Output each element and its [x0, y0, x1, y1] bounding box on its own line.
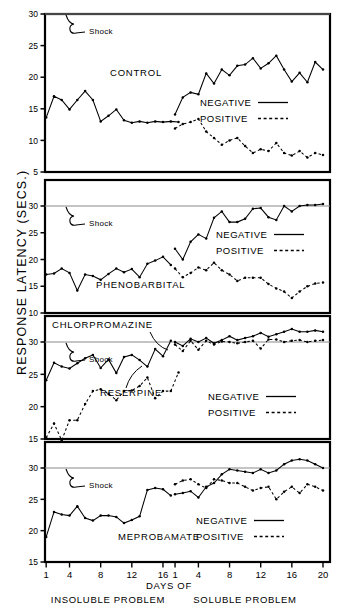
- panel-title: CHLORPROMAZINE: [52, 319, 153, 330]
- shock-pointer-icon: [66, 15, 85, 33]
- shock-pointer-icon: [66, 207, 85, 225]
- data-point: [283, 205, 286, 208]
- data-point: [123, 271, 126, 274]
- data-point: [189, 91, 192, 94]
- data-point: [306, 81, 309, 84]
- data-point: [291, 486, 294, 489]
- data-point: [174, 493, 177, 496]
- data-point: [182, 350, 185, 353]
- x-tick-label: 12: [255, 569, 266, 580]
- data-point: [267, 472, 270, 475]
- data-point: [174, 267, 177, 270]
- data-point: [60, 267, 63, 270]
- data-point: [84, 517, 87, 520]
- data-point: [236, 469, 239, 472]
- data-point: [131, 354, 134, 357]
- data-point: [205, 269, 208, 272]
- data-point: [236, 137, 239, 140]
- data-point: [197, 266, 200, 269]
- data-point: [182, 479, 185, 482]
- panel-title-secondary: RESERPINE: [100, 387, 162, 398]
- series-line-positive: [175, 263, 323, 298]
- data-point: [252, 57, 255, 60]
- data-point: [244, 471, 247, 474]
- data-point: [228, 221, 231, 224]
- shock-pointer-icon: [66, 469, 85, 487]
- data-point: [131, 268, 134, 271]
- data-point: [259, 487, 262, 490]
- panel-frame: [45, 14, 330, 172]
- data-point: [291, 80, 294, 83]
- data-point: [162, 355, 165, 358]
- data-point: [298, 339, 301, 342]
- data-point: [322, 281, 325, 284]
- data-point: [252, 472, 255, 475]
- data-point: [107, 115, 110, 118]
- data-point: [53, 95, 56, 98]
- data-point: [244, 218, 247, 221]
- y-tick-label: 20: [29, 526, 39, 536]
- data-point: [162, 390, 165, 393]
- data-point: [306, 204, 309, 207]
- data-point: [275, 333, 278, 336]
- data-point: [236, 65, 239, 68]
- data-point: [221, 68, 224, 71]
- x-tick-label: 16: [287, 569, 298, 580]
- data-point: [174, 341, 177, 344]
- data-point: [314, 463, 317, 466]
- data-point: [244, 145, 247, 148]
- data-point: [45, 436, 48, 439]
- data-point: [162, 121, 165, 124]
- data-point: [252, 207, 255, 210]
- data-point: [275, 498, 278, 501]
- data-point: [314, 282, 317, 285]
- data-point: [306, 330, 309, 333]
- data-point: [236, 280, 239, 283]
- legend-label-positive: POSITIVE: [208, 407, 256, 418]
- data-point: [283, 152, 286, 155]
- data-point: [177, 121, 180, 124]
- data-point: [221, 340, 224, 343]
- data-point: [162, 256, 165, 259]
- data-point: [259, 347, 262, 350]
- data-point: [221, 210, 224, 213]
- data-point: [259, 207, 262, 210]
- data-point: [291, 339, 294, 342]
- data-point: [306, 156, 309, 159]
- series-line-positive: [175, 119, 323, 158]
- data-point: [115, 516, 118, 519]
- data-point: [306, 459, 309, 462]
- data-point: [213, 478, 216, 481]
- data-point: [170, 390, 173, 393]
- panel-title: MEPROBAMATE: [118, 531, 200, 542]
- x-tick-label: 4: [196, 569, 201, 580]
- data-point: [314, 204, 317, 207]
- data-point: [275, 142, 278, 145]
- data-point: [252, 489, 255, 492]
- data-point: [228, 273, 231, 276]
- y-tick-label: 20: [29, 255, 39, 265]
- data-point: [205, 237, 208, 240]
- data-point: [213, 261, 216, 264]
- data-point: [138, 515, 141, 518]
- data-point: [259, 67, 262, 70]
- data-point: [275, 219, 278, 222]
- shock-label: Shock: [89, 219, 113, 228]
- data-point: [189, 272, 192, 275]
- panel-frame: [45, 180, 330, 313]
- data-point: [322, 330, 325, 333]
- data-point: [189, 478, 192, 481]
- data-point: [291, 459, 294, 462]
- data-point: [45, 379, 48, 382]
- data-point: [170, 264, 173, 267]
- x-tick-label: 20: [318, 569, 329, 580]
- data-point: [189, 241, 192, 244]
- data-point: [221, 144, 224, 147]
- data-point: [205, 339, 208, 342]
- x-tick-label: 1: [172, 569, 177, 580]
- data-point: [53, 422, 56, 425]
- y-axis-label: RESPONSE LATENCY (SECS.): [15, 175, 29, 375]
- data-point: [68, 367, 71, 370]
- x-axis-right-label: SOLUBLE PROBLEM: [193, 594, 296, 604]
- data-point: [228, 139, 231, 142]
